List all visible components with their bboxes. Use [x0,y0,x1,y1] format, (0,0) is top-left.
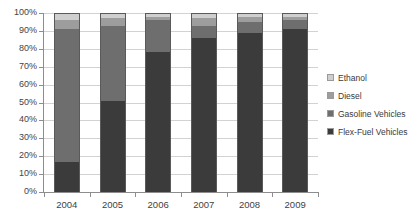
y-axis-tick-mark [39,49,43,50]
y-axis-tick-mark [39,156,43,157]
bar-outline-2009 [282,13,308,192]
legend-item-label: Gasoline Vehicles [338,109,406,119]
legend-item-ethanol[interactable]: Ethanol [327,70,411,85]
x-axis-tick-label: 2007 [179,199,229,210]
x-axis-tick-label: 2006 [133,199,183,210]
y-axis-tick-mark [39,192,43,193]
bar-2009 [282,13,308,192]
y-axis-tick-mark [39,31,43,32]
x-axis-tick-mark [135,193,136,197]
gridline [44,49,318,50]
y-axis-tick-label: 10% [1,169,37,178]
gridline [44,31,318,32]
legend-swatch-icon [327,128,334,135]
y-axis-tick-label: 50% [1,98,37,107]
legend-item-flex-fuel-vehicles[interactable]: Flex-Fuel Vehicles [327,124,411,139]
legend-item-label: Diesel [338,91,362,101]
x-axis-tick-mark [227,193,228,197]
bar-2006 [145,13,171,192]
gridline [44,156,318,157]
y-axis-tick-mark [39,85,43,86]
gridline [44,13,318,14]
y-axis-tick-label: 40% [1,115,37,124]
y-axis-tick-mark [39,13,43,14]
gridline [44,174,318,175]
bar-2008 [237,13,263,192]
y-axis-labels: 100%90%80%70%60%50%40%30%20%10%0% [0,0,37,221]
y-axis-tick-label: 30% [1,133,37,142]
gridline [44,120,318,121]
x-axis-tick-mark [181,193,182,197]
gridline [44,103,318,104]
y-axis-tick-mark [39,138,43,139]
x-axis-tick-mark [318,193,319,197]
legend-swatch-icon [327,74,334,81]
gridline [44,85,318,86]
y-axis-tick-label: 80% [1,44,37,53]
legend-swatch-icon [327,92,334,99]
legend-item-label: Ethanol [338,73,367,83]
y-axis-tick-mark [39,67,43,68]
y-axis-tick-mark [39,174,43,175]
y-axis-tick-label: 0% [1,187,37,196]
x-axis-tick-mark [90,193,91,197]
bar-2004 [54,13,80,192]
bar-outline-2004 [54,13,80,192]
legend-swatch-icon [327,110,334,117]
x-axis-tick-label: 2004 [42,199,92,210]
x-axis-tick-mark [272,193,273,197]
y-axis-tick-label: 70% [1,62,37,71]
x-axis-tick-mark [44,193,45,197]
y-axis-tick-mark [39,103,43,104]
x-axis-tick-label: 2008 [225,199,275,210]
gridline [44,67,318,68]
stacked-bar-chart: 100%90%80%70%60%50%40%30%20%10%0% 200420… [0,0,411,221]
x-axis-tick-label: 2009 [270,199,320,210]
chart-legend: EthanolDieselGasoline VehiclesFlex-Fuel … [327,70,411,142]
y-axis-tick-label: 90% [1,26,37,35]
bar-2005 [100,13,126,192]
bar-outline-2008 [237,13,263,192]
bar-outline-2006 [145,13,171,192]
gridline [44,138,318,139]
y-axis-tick-label: 20% [1,151,37,160]
y-axis-tick-label: 60% [1,80,37,89]
plot-area [44,13,318,192]
x-axis-tick-label: 2005 [88,199,138,210]
legend-item-label: Flex-Fuel Vehicles [338,127,407,137]
legend-item-diesel[interactable]: Diesel [327,88,411,103]
legend-item-gasoline-vehicles[interactable]: Gasoline Vehicles [327,106,411,121]
bar-outline-2007 [191,13,217,192]
y-axis-tick-label: 100% [1,8,37,17]
bar-2007 [191,13,217,192]
y-axis-tick-mark [39,120,43,121]
bar-outline-2005 [100,13,126,192]
